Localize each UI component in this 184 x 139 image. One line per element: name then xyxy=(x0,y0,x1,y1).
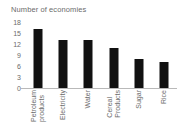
y-axis-tick-label: 18 xyxy=(13,19,21,26)
bar xyxy=(33,29,42,88)
x-axis-label: Electricity xyxy=(59,90,67,120)
bar xyxy=(160,62,169,88)
bar-slot xyxy=(50,22,75,88)
bar xyxy=(109,48,118,88)
y-axis-tick-label: 3 xyxy=(17,74,21,81)
x-axis-label-slot: Sugar xyxy=(126,90,151,139)
y-axis-tick-label: 9 xyxy=(17,52,21,59)
x-axis-label: Water xyxy=(85,90,93,108)
x-axis-label: Sugar xyxy=(135,90,143,109)
x-axis-label: Rice xyxy=(161,90,169,104)
y-axis-tick-label: 12 xyxy=(13,41,21,48)
x-axis-category-labels: PetroleumproductsElectricityWaterCerealP… xyxy=(25,90,177,139)
x-axis-label-slot: CerealProducts xyxy=(101,90,126,139)
bar-slot xyxy=(25,22,50,88)
y-axis-tick-label: 6 xyxy=(17,63,21,70)
x-axis-label-slot: Electricity xyxy=(50,90,75,139)
bar xyxy=(58,40,67,88)
bar xyxy=(134,59,143,88)
x-axis-label: Petroleumproducts xyxy=(30,90,45,122)
y-axis: 1815129630 xyxy=(0,22,21,88)
x-axis-label: CerealProducts xyxy=(106,90,121,118)
bar-chart: Number of economies 1815129630 Petroleum… xyxy=(0,0,184,139)
bar-slot xyxy=(126,22,151,88)
bar-slot xyxy=(76,22,101,88)
bar-slot xyxy=(152,22,177,88)
y-axis-tick-label: 15 xyxy=(13,30,21,37)
x-axis-label-slot: Water xyxy=(76,90,101,139)
bar-slot xyxy=(101,22,126,88)
plot-area xyxy=(25,22,177,88)
x-axis-label-slot: Petroleumproducts xyxy=(25,90,50,139)
chart-title: Number of economies xyxy=(11,5,86,14)
x-axis-label-slot: Rice xyxy=(152,90,177,139)
x-axis-line xyxy=(21,88,177,89)
bar xyxy=(84,40,93,88)
